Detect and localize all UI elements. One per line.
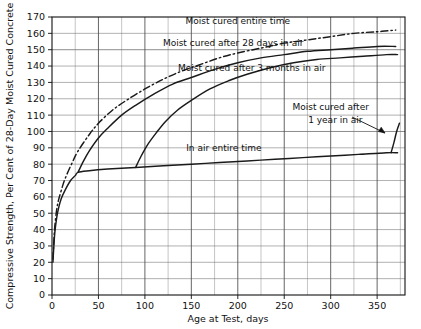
y-axis-title: Compressive Strength, Per Cent of 28-Day… [4,3,15,310]
x-tick-label: 300 [322,300,340,311]
series-annotation-label: In air entire time [186,143,262,153]
y-axis-ticks [48,17,52,295]
series-annotation-label: Moist cured entire time [185,16,290,26]
y-tick-label: 170 [27,11,45,22]
y-tick-label: 150 [27,44,45,55]
y-tick-label: 100 [27,126,45,137]
y-tick-label: 90 [33,142,45,153]
x-tick-label: 250 [275,300,293,311]
y-tick-label: 110 [27,110,45,121]
y-tick-label: 140 [27,60,45,71]
y-tick-label: 10 [33,273,45,284]
y-tick-label: 130 [27,77,45,88]
x-tick-label: 200 [229,300,247,311]
x-tick-label: 150 [182,300,200,311]
plot-background [52,17,405,295]
y-tick-label: 30 [33,240,45,251]
x-tick-label: 100 [136,300,154,311]
y-tick-label: 0 [39,289,45,300]
y-tick-label: 70 [33,175,45,186]
x-tick-label: 0 [49,300,55,311]
y-tick-label: 120 [27,93,45,104]
series-annotation-label: Moist cured after 28 days in air [163,38,304,48]
compressive-strength-line-chart: 0102030405060708090100110120130140150160… [0,0,421,329]
x-axis-title: Age at Test, days [187,313,268,324]
series-annotation-label: 1 year in air [308,115,363,125]
y-axis-tick-labels: 0102030405060708090100110120130140150160… [27,11,45,300]
y-tick-label: 80 [33,159,45,170]
y-tick-label: 50 [33,208,45,219]
y-tick-label: 60 [33,191,45,202]
x-axis-ticks [52,295,377,299]
y-tick-label: 20 [33,257,45,268]
x-tick-label: 50 [92,300,104,311]
y-tick-label: 160 [27,28,45,39]
series-annotation-label: Moist cured after 3 months in air [178,63,326,73]
y-tick-label: 40 [33,224,45,235]
x-axis-tick-labels: 050100150200250300350 [49,300,386,311]
series-annotation-label: Moist cured after [292,102,369,112]
x-tick-label: 350 [368,300,386,311]
chart-figure: 0102030405060708090100110120130140150160… [0,0,421,329]
